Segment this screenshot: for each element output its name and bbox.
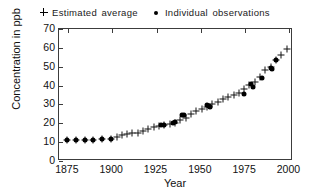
y-axis-tick	[59, 104, 63, 105]
y-axis-tick	[59, 161, 63, 162]
y-axis-title: Concentration in ppb	[10, 0, 22, 129]
chart-figure: Estimated average Individual observation…	[0, 0, 309, 195]
chart-legend: Estimated average Individual observation…	[0, 4, 309, 20]
y-axis-tick	[59, 86, 63, 87]
x-axis-tick	[289, 29, 290, 33]
x-axis-tick	[201, 29, 202, 33]
x-axis-tick	[112, 29, 113, 33]
x-axis-tick-label: 1925	[144, 163, 167, 175]
legend-item-estimated-average: Estimated average	[39, 7, 138, 18]
y-axis-tick	[59, 48, 63, 49]
x-axis-tick-labels: 187519001925195019752000	[58, 163, 292, 177]
y-axis-tick-label: 40	[43, 79, 55, 91]
dot-marker-icon	[152, 8, 161, 17]
plot-frame	[58, 28, 292, 160]
x-axis-tick	[68, 29, 69, 33]
x-axis-tick-label: 1950	[188, 163, 211, 175]
x-axis-title: Year	[58, 177, 292, 189]
y-axis-tick-label: 50	[43, 60, 55, 72]
legend-label-individual-observations: Individual observations	[165, 7, 270, 18]
plus-marker-icon	[39, 8, 48, 17]
legend-label-estimated-average: Estimated average	[52, 7, 138, 18]
y-axis-tick	[59, 67, 63, 68]
y-axis-tick	[59, 29, 63, 30]
y-axis-tick-label: 70	[43, 22, 55, 34]
x-axis-tick-label: 1875	[55, 163, 78, 175]
x-axis-tick-label: 1900	[99, 163, 122, 175]
legend-item-individual-observations: Individual observations	[152, 7, 270, 18]
y-axis-tick-label: 30	[43, 97, 55, 109]
y-axis-tick-labels: 010203040506070	[30, 28, 55, 160]
y-axis-tick-label: 60	[43, 41, 55, 53]
x-axis-tick-label: 2000	[277, 163, 300, 175]
x-axis-tick	[245, 29, 246, 33]
x-axis-tick-label: 1975	[232, 163, 255, 175]
y-axis-tick-label: 10	[43, 135, 55, 147]
x-axis-tick	[157, 29, 158, 33]
y-axis-tick-label: 0	[49, 154, 55, 166]
y-axis-tick	[59, 142, 63, 143]
y-axis-tick-label: 20	[43, 116, 55, 128]
y-axis-tick	[59, 123, 63, 124]
